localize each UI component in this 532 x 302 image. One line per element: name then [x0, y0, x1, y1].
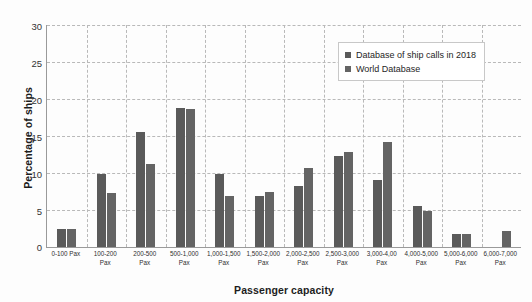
legend-item: Database of ship calls in 2018	[345, 50, 476, 60]
x-axis-tick-label: 2,000-2,500Pax	[283, 250, 323, 280]
legend-item: World Database	[345, 64, 476, 74]
x-axis-tick-label: 200-500Pax	[125, 250, 165, 280]
bar	[304, 168, 313, 247]
bar	[107, 193, 116, 247]
bar	[344, 152, 353, 247]
x-axis-tick-label: 1,500-2,000Pax	[244, 250, 284, 280]
bar	[225, 196, 234, 247]
x-axis-tick-label: 500-1,000Pax	[165, 250, 205, 280]
legend-swatch-icon	[345, 66, 351, 72]
bar-group	[482, 25, 522, 247]
bar	[97, 174, 106, 247]
bar	[255, 196, 264, 247]
x-axis-tick-label: 1,000-1,500Pax	[204, 250, 244, 280]
bar	[502, 231, 511, 247]
bar-chart: Percentage of ships 051015202530 0-100 P…	[0, 0, 532, 302]
bar	[383, 142, 392, 247]
x-axis-tick-label: 2,500-3,000Pax	[323, 250, 363, 280]
x-axis-tick-label: 5,000-6,000Pax	[441, 250, 481, 280]
legend: Database of ship calls in 2018World Data…	[338, 42, 485, 81]
bar	[215, 174, 224, 247]
bar	[57, 229, 66, 248]
x-axis-tick-label: 0-100 Pax	[46, 250, 86, 280]
bar-group	[126, 25, 166, 247]
x-axis-tick-label: 6,000-7,000Pax	[481, 250, 521, 280]
bar	[413, 206, 422, 247]
bar-group	[245, 25, 285, 247]
x-axis-tick-labels: 0-100 Pax100-200Pax200-500Pax500-1,000Pa…	[46, 250, 520, 280]
y-axis-title: Percentage of ships	[22, 48, 34, 228]
bar	[186, 109, 195, 247]
y-axis-tick-label: 0	[37, 242, 42, 253]
legend-label: Database of ship calls in 2018	[356, 50, 476, 60]
bar	[265, 192, 274, 248]
bar	[146, 164, 155, 247]
bar-group	[47, 25, 87, 247]
x-axis-tick-label: 4,000-5,000Pax	[402, 250, 442, 280]
bar-group	[166, 25, 206, 247]
legend-swatch-icon	[345, 52, 351, 58]
x-axis-tick-label: 3,000-4,00Pax	[362, 250, 402, 280]
x-axis-tick-label: 100-200Pax	[86, 250, 126, 280]
bar	[176, 108, 185, 247]
bar	[462, 234, 471, 247]
y-axis-tick-label: 5	[37, 206, 42, 217]
bar	[452, 234, 461, 247]
bar	[294, 186, 303, 247]
bar	[136, 132, 145, 247]
bar	[423, 211, 432, 247]
x-axis-title: Passenger capacity	[0, 284, 532, 296]
bar	[373, 180, 382, 247]
bar	[67, 229, 76, 248]
bar-group	[284, 25, 324, 247]
bar	[334, 156, 343, 247]
bar-group	[87, 25, 127, 247]
legend-label: World Database	[356, 64, 420, 74]
bar-group	[205, 25, 245, 247]
y-axis-tick-label: 30	[31, 21, 42, 32]
